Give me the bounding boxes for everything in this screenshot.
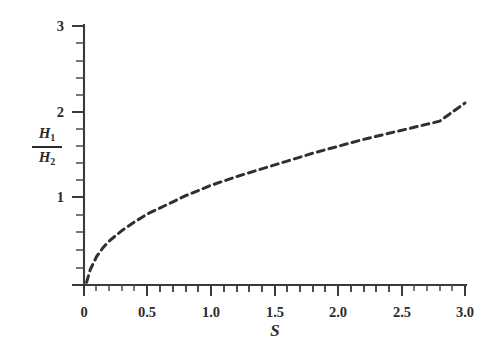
x-tick-label-4: 2.0 [329, 304, 347, 320]
x-tick-label-2: 1.0 [202, 304, 220, 320]
fraction-bar [32, 146, 62, 148]
x-tick-label-1: 0.5 [138, 304, 156, 320]
x-tick-label-3: 1.5 [266, 304, 284, 320]
x-axis-title: S [270, 321, 279, 340]
x-tick-label-6: 3.0 [456, 304, 474, 320]
y-axis-ticks [72, 26, 84, 285]
y-tick-label-2: 2 [57, 104, 64, 120]
x-axis-ticks [84, 285, 465, 296]
y-tick-label-3: 3 [57, 18, 64, 34]
chart-svg: 0 0.5 1.0 1.5 2.0 2.5 3.0 1 2 3 S [0, 0, 494, 347]
figure-panel: 0 0.5 1.0 1.5 2.0 2.5 3.0 1 2 3 S H1 H2 [0, 0, 494, 347]
y-axis-title-numerator: H1 [24, 126, 70, 145]
data-curve-h1h2 [87, 103, 465, 282]
y-axis-title-denominator: H2 [24, 149, 70, 168]
y-tick-label-1: 1 [57, 189, 64, 205]
y-tick-labels: 1 2 3 [57, 18, 64, 205]
y-axis-title: H1 H2 [24, 126, 70, 167]
x-tick-label-0: 0 [80, 304, 87, 320]
x-tick-labels: 0 0.5 1.0 1.5 2.0 2.5 3.0 [80, 304, 474, 320]
x-tick-label-5: 2.5 [393, 304, 411, 320]
